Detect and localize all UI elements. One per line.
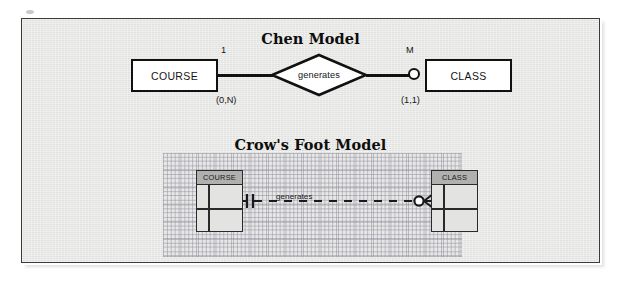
chen-entity-class[interactable]: CLASS — [425, 59, 512, 92]
crowsfoot-entity-class-header: CLASS — [432, 171, 477, 185]
chen-optional-circle-icon — [408, 68, 420, 80]
scan-speck — [26, 10, 34, 14]
crowsfoot-entity-course[interactable]: COURSE — [196, 170, 243, 232]
crowsfoot-model-title: Crow's Foot Model — [22, 136, 599, 153]
chen-entity-course[interactable]: COURSE — [131, 59, 218, 92]
chen-cardinality-right: M — [406, 45, 414, 55]
crowsfoot-entity-course-header: COURSE — [197, 171, 242, 185]
crowsfoot-model-diagram: COURSE CLASS generates — [163, 153, 462, 257]
zero-optionality-circle-icon — [414, 196, 423, 205]
chen-relationship-diamond[interactable]: generates — [270, 53, 368, 97]
crowsfoot-class-row-divider — [432, 208, 477, 210]
chen-connector-line-right — [366, 74, 412, 77]
chen-participation-left: (0,N) — [216, 95, 236, 105]
chen-connector-line-left — [217, 74, 273, 77]
crowsfoot-course-row-divider — [197, 208, 242, 210]
chen-cardinality-left: 1 — [221, 45, 226, 55]
crowsfoot-relationship-label: generates — [276, 192, 312, 201]
chen-relationship-label: generates — [270, 53, 368, 97]
chen-entity-course-label: COURSE — [151, 70, 198, 82]
diagram-panel: Chen Model COURSE CLASS generates 1 (0,N… — [21, 18, 600, 263]
crowsfoot-entity-class[interactable]: CLASS — [431, 170, 478, 232]
figure-canvas: Chen Model COURSE CLASS generates 1 (0,N… — [0, 0, 622, 288]
chen-participation-right: (1,1) — [401, 95, 420, 105]
chen-model-diagram: COURSE CLASS generates 1 (0,N) M (1,1) — [22, 19, 601, 129]
chen-entity-class-label: CLASS — [450, 70, 486, 82]
